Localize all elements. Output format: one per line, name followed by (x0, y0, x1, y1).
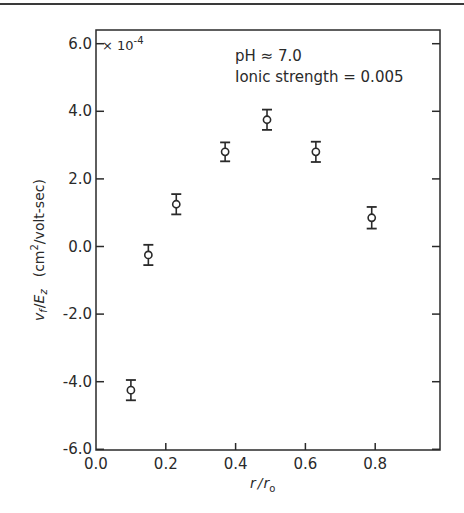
y-tick-label: 0.0 (68, 238, 92, 256)
data-point (143, 245, 153, 265)
scatter-chart: 6.04.02.00.0-2.0-4.0-6.0 0.00.20.40.60.8… (0, 0, 464, 513)
x-tick-label: 0.8 (363, 455, 387, 473)
plot-frame (96, 30, 440, 450)
y-multiplier: × 10-4 (102, 35, 144, 53)
y-axis-ticks: 6.04.02.00.0-2.0-4.0-6.0 (63, 35, 440, 459)
y-tick-label: 4.0 (68, 102, 92, 120)
data-points (126, 110, 377, 401)
x-tick-label: 0.6 (293, 455, 317, 473)
y-tick-label: -2.0 (63, 305, 92, 323)
data-point (220, 142, 230, 161)
x-tick-label: 0.0 (84, 455, 108, 473)
annotation-ph: pH ≈ 7.0 (235, 47, 302, 65)
x-axis-ticks: 0.00.20.40.60.8 (84, 443, 387, 473)
y-axis-title: vf/Ez(cm2/volt-sec) (29, 179, 49, 321)
x-tick-label: 0.4 (224, 455, 248, 473)
data-point (311, 142, 321, 162)
x-tick-label: 0.2 (154, 455, 178, 473)
annotation-ionic-strength: Ionic strength = 0.005 (235, 68, 404, 86)
y-tick-label: 6.0 (68, 35, 92, 53)
y-tick-label: 2.0 (68, 170, 92, 188)
data-point (367, 207, 377, 229)
data-point (171, 194, 181, 214)
data-point (126, 380, 136, 400)
data-point (262, 110, 272, 130)
y-tick-label: -4.0 (63, 373, 92, 391)
x-axis-title: r/ro (250, 475, 275, 494)
